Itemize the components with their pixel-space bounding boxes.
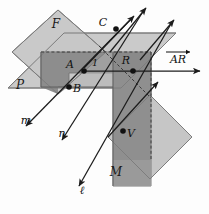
- point-R-dot[interactable]: [130, 68, 136, 74]
- ray-AR-vector-arrowhead: [186, 50, 190, 54]
- geometry-diagram: F P M A B C R V 1 m n ℓ AR: [0, 0, 209, 214]
- geometry-canvas: F P M A B C R V 1 m n ℓ AR: [0, 0, 209, 214]
- point-B-label: B: [72, 82, 81, 95]
- angle-1-label: 1: [92, 57, 98, 68]
- plane-mid-slab: [45, 87, 113, 160]
- line-n-label: n: [58, 127, 65, 140]
- point-A-label: A: [65, 58, 74, 71]
- point-C-label: C: [99, 16, 108, 29]
- point-V-dot[interactable]: [120, 128, 126, 134]
- plane-M-label: M: [109, 165, 123, 179]
- point-R-label: R: [121, 54, 130, 67]
- point-A-dot[interactable]: [81, 68, 87, 74]
- ray-AR-label: AR: [169, 53, 186, 66]
- point-B-dot[interactable]: [66, 84, 72, 90]
- line-ell-label: ℓ: [80, 184, 85, 197]
- line-m-label: m: [21, 114, 31, 127]
- point-V-label: V: [127, 127, 136, 140]
- plane-P-label: P: [15, 78, 25, 92]
- plane-F-label: F: [51, 17, 61, 31]
- point-C-dot[interactable]: [113, 26, 119, 32]
